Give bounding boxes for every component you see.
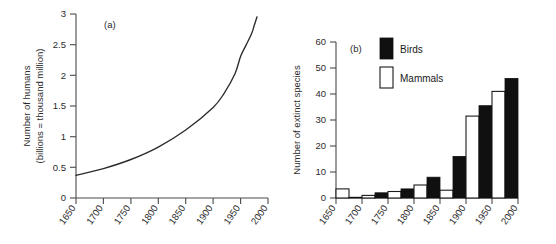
panel-b-ytick-40: 40 <box>315 88 326 99</box>
bar-mammals-1850-1900 <box>440 190 453 198</box>
panel-b-x-tick-labels: 1650 1700 1750 1800 1850 1900 1950 2000 <box>317 203 520 227</box>
panel-a-svg: 0 0.5 1 1.5 2 2.5 3 1650 170 <box>0 0 278 244</box>
panel-a-ytick-2: 1 <box>61 131 66 142</box>
bar-mammals-1800-1850 <box>414 185 427 198</box>
panel-a-label: (a) <box>104 19 116 30</box>
panel-a-xtick-1800: 1800 <box>139 203 160 227</box>
panel-b-ytick-20: 20 <box>315 140 326 151</box>
panel-a-y-ticks <box>70 14 76 198</box>
panel-b-ytick-0: 0 <box>321 192 326 203</box>
bar-birds-1850-1900 <box>453 156 466 198</box>
panel-a-y-axis-title-line1: Number of humans <box>21 65 32 146</box>
panel-a-xtick-1750: 1750 <box>111 203 132 227</box>
bar-birds-1800-1850 <box>427 177 440 198</box>
panel-a-xtick-1950: 1950 <box>221 203 242 227</box>
panel-b-bar-group <box>336 78 518 198</box>
bar-mammals-1700-1750 <box>362 195 375 198</box>
panel-a-ytick-4: 2 <box>61 70 66 81</box>
bar-birds-1700-1750 <box>375 193 388 198</box>
panel-b-xtick-1950: 1950 <box>473 203 494 227</box>
panel-b-legend: Birds Mammals <box>380 38 443 88</box>
panel-a-y-axis-title-line2: (billions = thousand million) <box>34 49 45 164</box>
bar-mammals-1650-1700 <box>336 189 349 198</box>
panel-a-ytick-0: 0 <box>61 192 66 203</box>
panel-a-population-chart: 0 0.5 1 1.5 2 2.5 3 1650 170 <box>0 0 278 244</box>
panel-b-y-axis-title: Number of extinct species <box>291 65 302 175</box>
panel-b-ytick-30: 30 <box>315 114 326 125</box>
panel-b-svg: 0 10 20 30 40 50 60 1650 170 <box>278 0 556 244</box>
panel-b-xtick-1750: 1750 <box>369 203 390 227</box>
panel-b-xtick-1900: 1900 <box>447 203 468 227</box>
panel-b-xtick-1700: 1700 <box>343 203 364 227</box>
bar-birds-1650-1700 <box>349 197 362 198</box>
panel-a-population-curve <box>76 17 257 176</box>
bar-birds-1750-1800 <box>401 189 414 198</box>
panel-b-xtick-1650: 1650 <box>317 203 338 227</box>
panel-b-ytick-50: 50 <box>315 62 326 73</box>
bar-mammals-1950-2000 <box>492 91 505 198</box>
legend-swatch-mammals-icon <box>380 67 393 88</box>
figure-container: 0 0.5 1 1.5 2 2.5 3 1650 170 <box>0 0 556 244</box>
legend-label-mammals: Mammals <box>400 73 443 84</box>
panel-b-label: (b) <box>350 43 362 54</box>
panel-a-x-ticks <box>76 198 268 204</box>
panel-b-xtick-1850: 1850 <box>421 203 442 227</box>
panel-b-x-ticks <box>336 198 518 204</box>
panel-a-ytick-5: 2.5 <box>53 39 66 50</box>
panel-a-y-tick-labels: 0 0.5 1 1.5 2 2.5 3 <box>53 8 66 203</box>
panel-b-y-tick-labels: 0 10 20 30 40 50 60 <box>315 36 326 203</box>
bar-birds-1950-2000 <box>505 78 518 198</box>
panel-b-xtick-2000: 2000 <box>499 203 520 227</box>
bar-mammals-1900-1950 <box>466 116 479 198</box>
panel-a-xtick-2000: 2000 <box>249 203 270 227</box>
panel-a-ytick-3: 1.5 <box>53 100 66 111</box>
panel-a-xtick-1700: 1700 <box>84 203 105 227</box>
panel-b-y-ticks <box>330 42 336 198</box>
legend-swatch-birds-icon <box>380 38 393 59</box>
panel-b-ytick-10: 10 <box>315 166 326 177</box>
panel-b-extinction-chart: 0 10 20 30 40 50 60 1650 170 <box>278 0 556 244</box>
panel-a-xtick-1900: 1900 <box>194 203 215 227</box>
panel-a-xtick-1650: 1650 <box>57 203 78 227</box>
panel-b-ytick-60: 60 <box>315 36 326 47</box>
panel-a-ytick-6: 3 <box>61 8 66 19</box>
panel-a-ytick-1: 0.5 <box>53 162 66 173</box>
legend-label-birds: Birds <box>400 44 423 55</box>
panel-a-x-tick-labels: 1650 1700 1750 1800 1850 1900 1950 2000 <box>57 203 270 227</box>
bar-birds-1900-1950 <box>479 106 492 198</box>
panel-b-xtick-1800: 1800 <box>395 203 416 227</box>
bar-mammals-1750-1800 <box>388 192 401 199</box>
panel-a-xtick-1850: 1850 <box>166 203 187 227</box>
